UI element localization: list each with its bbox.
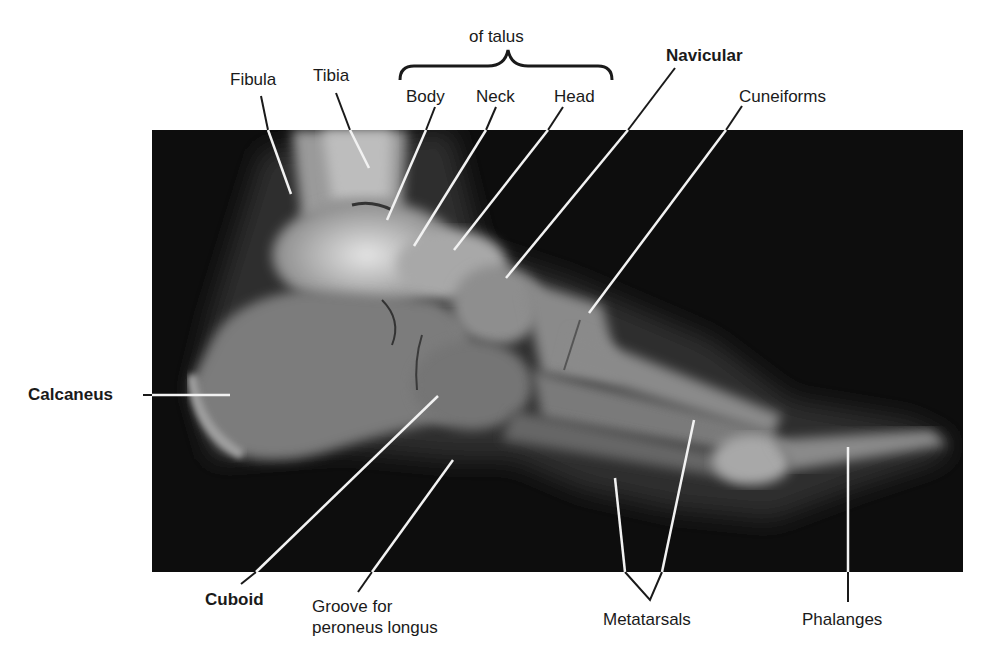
foot-xray-figure: Fibula Tibia of talus Body Neck Head Nav… <box>0 0 991 657</box>
label-groove-line1: Groove for <box>312 597 392 617</box>
label-tibia: Tibia <box>313 66 349 86</box>
label-groove-line2: peroneus longus <box>312 618 438 638</box>
label-phalanges: Phalanges <box>802 610 882 630</box>
label-cuneiforms: Cuneiforms <box>739 87 826 107</box>
label-cuboid: Cuboid <box>205 590 264 610</box>
label-talus-head: Head <box>554 87 595 107</box>
label-talus-neck: Neck <box>476 87 515 107</box>
label-calcaneus: Calcaneus <box>28 385 113 405</box>
label-fibula: Fibula <box>230 70 276 90</box>
label-navicular: Navicular <box>666 46 743 66</box>
label-metatarsals: Metatarsals <box>603 610 691 630</box>
label-of-talus: of talus <box>469 27 524 47</box>
label-talus-body: Body <box>406 87 445 107</box>
